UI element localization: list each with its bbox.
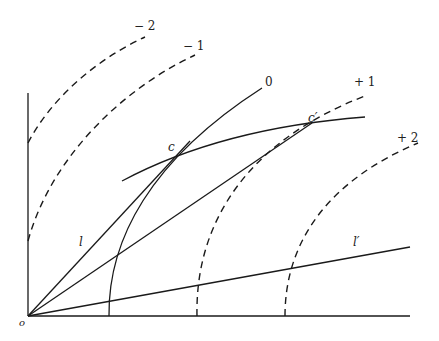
label-0: 0	[265, 75, 273, 89]
label-origin: o	[19, 317, 25, 328]
label-minus-1: − 1	[183, 39, 205, 53]
diagram: − 2 − 1 + 1 + 2 0 c c′ l l′ o	[0, 0, 439, 341]
solid-curve-0	[109, 88, 262, 316]
curve-through-c-and-c-prime	[122, 117, 365, 181]
label-minus-2: − 2	[134, 19, 156, 33]
label-c: c	[168, 140, 175, 154]
dashed-curve-minus-2	[28, 37, 145, 143]
label-l: l	[79, 235, 83, 249]
dashed-curve-plus-1	[197, 96, 365, 316]
label-plus-1: + 1	[354, 75, 376, 89]
line-l	[28, 141, 190, 316]
label-l-prime: l′	[353, 235, 360, 249]
line-l-prime	[28, 247, 410, 316]
label-c-prime: c′	[308, 111, 318, 125]
label-plus-2: + 2	[397, 131, 419, 145]
dashed-curve-plus-2	[285, 143, 418, 316]
